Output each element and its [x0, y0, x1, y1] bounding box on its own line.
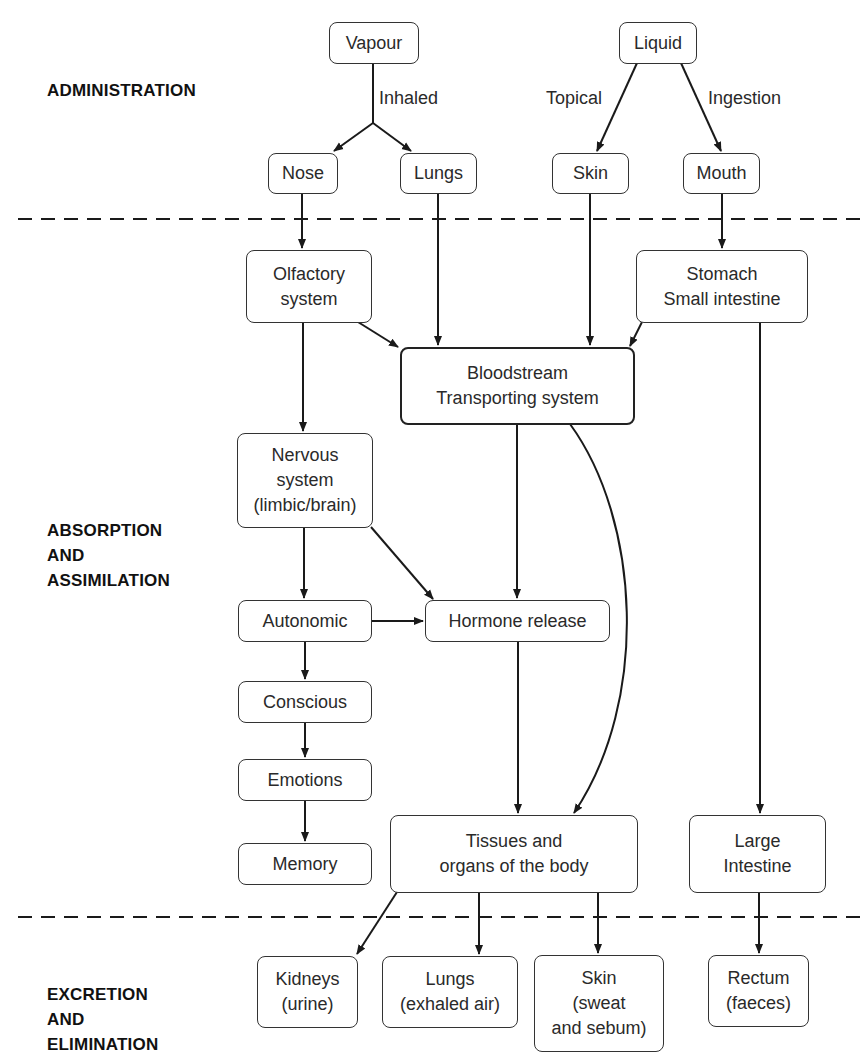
node-label: and sebum): [551, 1016, 646, 1041]
node-nervous-system: Nervous system (limbic/brain): [237, 433, 373, 528]
edge-stomach-bloodstream: [630, 322, 642, 346]
section-label-line: AND: [47, 1007, 158, 1032]
edge-inhaled-nose: [334, 123, 373, 151]
node-mouth: Mouth: [683, 153, 760, 194]
node-label: Nervous: [271, 443, 338, 468]
node-memory: Memory: [238, 843, 372, 885]
edge-label-ingestion: Ingestion: [708, 88, 781, 109]
node-label: Conscious: [263, 690, 347, 715]
node-label: Emotions: [267, 768, 342, 793]
section-label-absorption: ABSORPTION AND ASSIMILATION: [47, 518, 170, 593]
section-label-line: ADMINISTRATION: [47, 78, 196, 103]
node-emotions: Emotions: [238, 759, 372, 801]
flow-diagram: ADMINISTRATION ABSORPTION AND ASSIMILATI…: [0, 0, 867, 1063]
edge-olfactory-bloodstream: [358, 322, 398, 347]
node-kidneys: Kidneys (urine): [257, 956, 358, 1028]
node-autonomic: Autonomic: [238, 600, 372, 642]
node-vapour: Vapour: [329, 22, 419, 64]
node-skin-sweat-sebum: Skin (sweat and sebum): [534, 955, 664, 1052]
section-label-excretion: EXCRETION AND ELIMINATION: [47, 982, 158, 1057]
node-label: (faeces): [726, 991, 791, 1016]
node-rectum: Rectum (faeces): [708, 955, 809, 1027]
section-label-line: AND: [47, 543, 170, 568]
edge-label-inhaled: Inhaled: [379, 88, 438, 109]
node-label: Liquid: [634, 31, 682, 56]
node-label: Memory: [272, 852, 337, 877]
node-hormone-release: Hormone release: [425, 600, 610, 642]
edge-label-topical: Topical: [546, 88, 602, 109]
node-label: Large: [734, 829, 780, 854]
node-label: Small intestine: [663, 287, 780, 312]
node-label: Lungs: [425, 967, 474, 992]
node-label: (exhaled air): [400, 992, 500, 1017]
section-label-line: ELIMINATION: [47, 1032, 158, 1057]
node-label: Tissues and: [466, 829, 562, 854]
node-label: system: [276, 468, 333, 493]
node-label: (limbic/brain): [253, 493, 356, 518]
node-label: Transporting system: [436, 386, 598, 411]
section-label-administration: ADMINISTRATION: [47, 78, 196, 103]
node-label: Kidneys: [275, 967, 339, 992]
node-label: Olfactory: [273, 262, 345, 287]
node-olfactory-system: Olfactory system: [246, 250, 372, 323]
node-bloodstream: Bloodstream Transporting system: [400, 347, 635, 425]
node-label: Intestine: [723, 854, 791, 879]
node-large-intestine: Large Intestine: [689, 815, 826, 893]
node-liquid: Liquid: [619, 22, 697, 64]
node-conscious: Conscious: [238, 681, 372, 723]
node-label: Stomach: [686, 262, 757, 287]
section-label-line: ASSIMILATION: [47, 568, 170, 593]
edge-liquid-skin: [597, 63, 637, 151]
section-label-line: EXCRETION: [47, 982, 158, 1007]
node-label: Rectum: [727, 966, 789, 991]
node-tissues-organs: Tissues and organs of the body: [390, 815, 638, 893]
node-label: Skin: [573, 161, 608, 186]
node-label: Nose: [282, 161, 324, 186]
node-label: (sweat: [572, 991, 625, 1016]
node-label: organs of the body: [439, 854, 588, 879]
node-label: (urine): [281, 992, 333, 1017]
edge-inhaled-lungs: [373, 123, 411, 151]
edge-nervous-hormone: [371, 527, 433, 599]
node-label: Skin: [581, 966, 616, 991]
edge-tissues-kidneys: [357, 892, 397, 954]
node-label: Lungs: [414, 161, 463, 186]
node-label: Vapour: [346, 31, 403, 56]
node-skin-topical: Skin: [552, 153, 629, 194]
node-label: Hormone release: [448, 609, 586, 634]
node-lungs-exhaled: Lungs (exhaled air): [382, 956, 518, 1028]
node-label: system: [280, 287, 337, 312]
node-label: Mouth: [696, 161, 746, 186]
node-label: Bloodstream: [467, 361, 568, 386]
node-stomach-small-intestine: Stomach Small intestine: [636, 250, 808, 323]
node-nose: Nose: [268, 153, 338, 194]
section-label-line: ABSORPTION: [47, 518, 170, 543]
node-label: Autonomic: [262, 609, 347, 634]
node-lungs-inhaled: Lungs: [400, 153, 477, 194]
